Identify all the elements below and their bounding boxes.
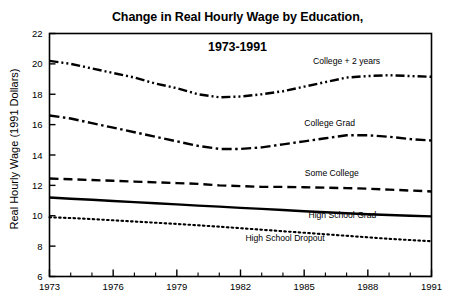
series-line-2 bbox=[50, 179, 432, 192]
y-tick-label: 22 bbox=[32, 28, 43, 39]
x-axis-ticks: 1973197619791982198519881991 bbox=[39, 270, 442, 292]
y-tick-label: 12 bbox=[32, 180, 43, 191]
x-tick-label: 1973 bbox=[39, 281, 60, 292]
x-tick-label: 1976 bbox=[103, 281, 124, 292]
y-tick-label: 8 bbox=[37, 241, 42, 252]
x-tick-label: 1979 bbox=[166, 281, 187, 292]
series-label-2: Some College bbox=[305, 168, 359, 178]
axes-frame bbox=[50, 34, 432, 277]
series-label-0: College + 2 years bbox=[313, 56, 380, 66]
y-axis-ticks: 6810121416182022 bbox=[32, 28, 56, 282]
x-tick-label: 1988 bbox=[357, 281, 378, 292]
y-tick-label: 10 bbox=[32, 210, 43, 221]
series-line-4 bbox=[50, 217, 432, 241]
y-tick-label: 20 bbox=[32, 58, 43, 69]
x-tick-label: 1985 bbox=[294, 281, 315, 292]
x-tick-label: 1982 bbox=[230, 281, 251, 292]
series-line-1 bbox=[50, 116, 432, 149]
series-label-1: College Grad bbox=[304, 118, 355, 128]
x-tick-label: 1991 bbox=[421, 281, 442, 292]
chart-figure: Change in Real Hourly Wage by Education,… bbox=[0, 0, 475, 299]
y-tick-label: 16 bbox=[32, 119, 43, 130]
y-tick-label: 18 bbox=[32, 89, 43, 100]
plot-area: 6810121416182022 19731976197919821985198… bbox=[0, 0, 475, 299]
series-label-3: High School Grad bbox=[308, 210, 376, 220]
series-line-0 bbox=[50, 61, 432, 97]
y-tick-label: 14 bbox=[32, 150, 43, 161]
series-label-4: High School Dropout bbox=[245, 233, 325, 243]
